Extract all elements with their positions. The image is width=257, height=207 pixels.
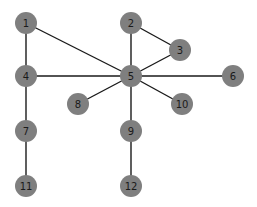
node-8: 8 [67,93,89,115]
node-label: 3 [177,45,183,56]
node-3: 3 [169,39,191,61]
node-label: 12 [125,181,138,192]
edges-layer [26,23,233,186]
edge-1-5 [26,23,131,76]
node-label: 8 [75,99,81,110]
graph-diagram: 123456789101112 [0,0,257,207]
node-1: 1 [15,12,37,34]
node-9: 9 [120,120,142,142]
node-10: 10 [171,93,193,115]
node-label: 11 [20,181,33,192]
nodes-layer: 123456789101112 [15,12,244,197]
node-label: 10 [176,99,189,110]
node-5: 5 [120,65,142,87]
node-7: 7 [15,120,37,142]
node-11: 11 [15,175,37,197]
node-label: 1 [23,18,29,29]
node-6: 6 [222,65,244,87]
node-label: 7 [23,126,29,137]
node-label: 6 [230,71,236,82]
node-label: 2 [128,18,134,29]
node-label: 4 [23,71,29,82]
node-label: 5 [128,71,134,82]
node-12: 12 [120,175,142,197]
node-label: 9 [128,126,134,137]
node-2: 2 [120,12,142,34]
node-4: 4 [15,65,37,87]
